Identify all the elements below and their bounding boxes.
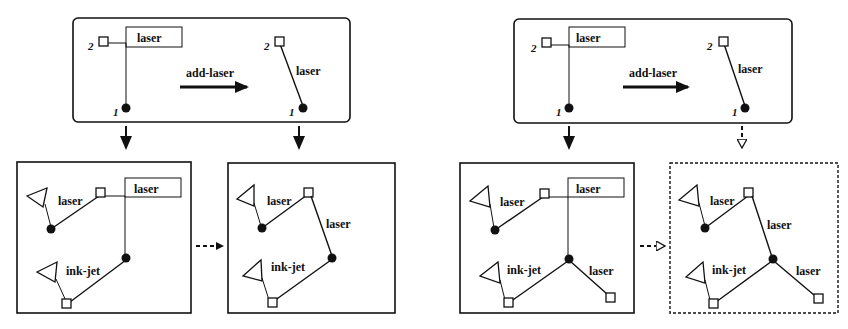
- edge-label: laser: [576, 31, 601, 45]
- node-dot-1: [122, 104, 131, 113]
- edge-label: laser: [326, 217, 351, 231]
- node-dot-1: [741, 104, 750, 113]
- node-number-1: 1: [732, 106, 738, 118]
- edge-label: laser: [767, 218, 792, 232]
- edge-label: laser: [738, 62, 763, 76]
- node-number-1: 1: [556, 106, 562, 118]
- rule-rhs: 2 laser 1: [263, 37, 321, 118]
- rule-lhs: laser 2 1: [530, 27, 625, 118]
- node-dot: [122, 254, 131, 263]
- host-graph-2: laser laser ink-jet: [228, 163, 395, 313]
- node-dot: [701, 224, 710, 233]
- node-square: [268, 298, 277, 307]
- host-graph-3: laser laser ink-jet laser: [460, 163, 634, 313]
- edge-label: laser: [137, 31, 162, 45]
- rule-lhs: laser 2 1: [87, 27, 182, 118]
- node-dot: [258, 224, 267, 233]
- host-graph-4: laser laser ink-jet laser: [670, 163, 838, 313]
- graph-frame: [17, 162, 191, 313]
- node-square: [744, 188, 753, 197]
- node-number-2: 2: [530, 42, 537, 54]
- edge-label: ink-jet: [712, 263, 746, 277]
- node-number-1: 1: [289, 106, 295, 118]
- rule-name: add-laser: [186, 66, 235, 80]
- graph-frame-dashed: [670, 163, 838, 313]
- node-dot-1: [565, 104, 574, 113]
- edge-label: ink-jet: [507, 263, 541, 277]
- graph-frame: [460, 163, 634, 313]
- node-number-2: 2: [263, 40, 270, 52]
- edge-label: ink-jet: [66, 264, 100, 278]
- triangle-node: [37, 262, 57, 282]
- node-square: [304, 188, 313, 197]
- host-graph-1: laser laser ink-jet: [17, 162, 191, 313]
- edge-label: laser: [576, 182, 601, 196]
- edge-label: laser: [710, 194, 735, 208]
- node-square: [62, 299, 71, 308]
- rule-name: add-laser: [629, 66, 678, 80]
- node-square-2: [719, 37, 728, 46]
- node-number-1: 1: [113, 106, 119, 118]
- node-square-2: [99, 37, 108, 46]
- diagram-canvas: laser 2 1 add-laser 2 laser 1 las: [0, 0, 848, 329]
- node-dot-1: [299, 104, 308, 113]
- triangle-node: [686, 262, 705, 283]
- triangle-node: [679, 185, 699, 206]
- node-square: [814, 294, 823, 303]
- triangle-node: [480, 262, 500, 283]
- node-square: [504, 298, 513, 307]
- node-square-2: [542, 38, 551, 47]
- edge-label: laser: [58, 194, 83, 208]
- edge-label: laser: [500, 195, 525, 209]
- triangle-node: [243, 260, 262, 281]
- node-number-2: 2: [87, 40, 94, 52]
- triangle-node: [237, 185, 254, 206]
- node-square: [540, 189, 549, 198]
- node-square-2: [275, 37, 284, 46]
- node-square: [606, 293, 615, 302]
- rule-panel-right: laser 2 1 add-laser 2 laser 1: [514, 19, 792, 123]
- edge-label: laser: [134, 182, 159, 196]
- rule-rhs: 2 laser 1: [706, 37, 763, 118]
- edge-label: laser: [589, 264, 614, 278]
- node-square: [96, 188, 105, 197]
- rule-panel-left: laser 2 1 add-laser 2 laser 1: [73, 18, 350, 122]
- node-square: [709, 299, 718, 308]
- node-dot: [47, 225, 56, 234]
- node-number-2: 2: [706, 40, 713, 52]
- triangle-node: [27, 188, 47, 207]
- edge-label: laser: [796, 264, 821, 278]
- edge-label: laser: [296, 64, 321, 78]
- edge-label: ink-jet: [271, 260, 305, 274]
- edge-label: laser: [267, 194, 292, 208]
- triangle-node: [470, 186, 490, 207]
- node-dot: [491, 226, 500, 235]
